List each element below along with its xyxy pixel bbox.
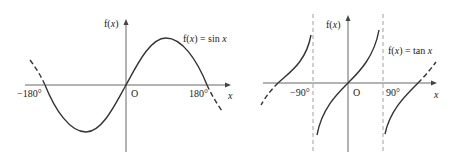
sine-x-axis-arrow-icon (225, 83, 231, 88)
sine-tick-neg-180: −180° (17, 88, 42, 99)
tan-origin-label: O (353, 87, 360, 98)
sine-y-axis-arrow-icon (124, 19, 129, 25)
trig-graphs: f(x) f(x) = sin x O −180° 180° x f(x) (0, 0, 456, 164)
tan-function-label: f(x) = tan x (388, 45, 433, 57)
tan-x-axis-arrow-icon (431, 81, 437, 86)
tan-tick-neg-90: −90° (290, 87, 310, 98)
tan-right-branch-extension (418, 62, 436, 83)
tan-left-branch-extension (261, 83, 278, 105)
sine-x-axis-label: x (227, 90, 233, 101)
tan-y-axis-arrow-icon (346, 15, 351, 21)
sine-graph: f(x) f(x) = sin x O −180° 180° x (17, 18, 233, 152)
sine-curve-right-extension (207, 85, 222, 111)
sine-curve-left-extension (30, 60, 45, 85)
tan-x-axis-label: x (433, 89, 439, 100)
sine-function-label: f(x) = sin x (183, 33, 227, 45)
tan-graph: f(x) f(x) = tan x O −90° 90° x (261, 14, 439, 152)
sine-origin-label: O (131, 88, 138, 99)
tan-left-branch (278, 35, 311, 83)
tan-y-axis-label: f(x) (326, 19, 340, 31)
sine-tick-180: 180° (189, 88, 208, 99)
tan-tick-90: 90° (386, 87, 400, 98)
sine-y-axis-label: f(x) (104, 18, 118, 30)
